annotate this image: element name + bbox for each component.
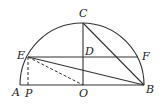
segment-EO: [28, 57, 83, 85]
semicircle-arc: [20, 23, 144, 85]
segment-EB: [28, 57, 144, 85]
label-B: B: [145, 83, 154, 96]
label-F: F: [141, 50, 150, 63]
label-A: A: [11, 86, 20, 99]
label-O: O: [79, 87, 88, 100]
semicircle-diagram: C E D F A P O B: [0, 0, 162, 105]
label-C: C: [79, 7, 88, 20]
label-D: D: [84, 45, 94, 58]
label-E: E: [16, 49, 25, 62]
label-P: P: [24, 87, 33, 100]
